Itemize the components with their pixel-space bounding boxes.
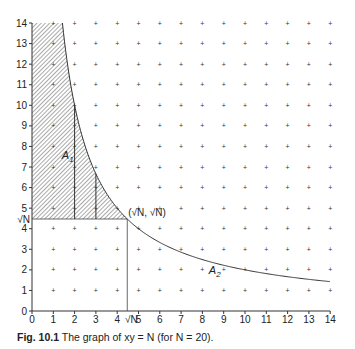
- svg-text:6: 6: [21, 182, 27, 193]
- svg-text:+: +: [136, 81, 140, 88]
- svg-text:+: +: [222, 81, 226, 88]
- svg-text:+: +: [307, 225, 311, 232]
- svg-text:+: +: [286, 225, 290, 232]
- svg-text:+: +: [94, 40, 98, 47]
- svg-text:+: +: [222, 61, 226, 68]
- svg-text:+: +: [51, 20, 55, 27]
- svg-text:+: +: [115, 246, 119, 253]
- svg-text:+: +: [136, 20, 140, 27]
- svg-text:+: +: [307, 61, 311, 68]
- svg-text:8: 8: [200, 314, 206, 325]
- svg-text:+: +: [179, 143, 183, 150]
- svg-text:+: +: [158, 61, 162, 68]
- svg-text:+: +: [51, 102, 55, 109]
- svg-text:+: +: [179, 266, 183, 273]
- svg-text:+: +: [200, 20, 204, 27]
- svg-text:+: +: [200, 143, 204, 150]
- svg-text:+: +: [328, 184, 332, 191]
- svg-text:11: 11: [261, 314, 272, 325]
- svg-text:+: +: [158, 143, 162, 150]
- svg-text:+: +: [286, 61, 290, 68]
- svg-text:+: +: [115, 225, 119, 232]
- svg-text:+: +: [264, 20, 268, 27]
- svg-text:+: +: [222, 205, 226, 212]
- svg-text:+: +: [243, 287, 247, 294]
- svg-text:+: +: [200, 225, 204, 232]
- svg-text:2: 2: [21, 264, 27, 275]
- svg-text:+: +: [328, 143, 332, 150]
- svg-text:+: +: [264, 40, 268, 47]
- svg-text:+: +: [243, 225, 247, 232]
- svg-text:+: +: [264, 61, 268, 68]
- svg-text:+: +: [73, 266, 77, 273]
- svg-text:+: +: [51, 164, 55, 171]
- svg-text:+: +: [136, 246, 140, 253]
- svg-text:+: +: [222, 122, 226, 129]
- svg-text:+: +: [200, 266, 204, 273]
- svg-text:+: +: [51, 184, 55, 191]
- svg-text:+: +: [200, 287, 204, 294]
- svg-text:(√N, √N): (√N, √N): [128, 207, 166, 218]
- svg-text:+: +: [286, 20, 290, 27]
- svg-text:+: +: [243, 122, 247, 129]
- svg-text:+: +: [222, 164, 226, 171]
- svg-text:+: +: [328, 102, 332, 109]
- svg-text:+: +: [264, 122, 268, 129]
- svg-text:+: +: [51, 143, 55, 150]
- svg-text:+: +: [115, 184, 119, 191]
- svg-text:+: +: [158, 20, 162, 27]
- svg-text:+: +: [73, 225, 77, 232]
- svg-text:+: +: [73, 40, 77, 47]
- svg-text:+: +: [158, 225, 162, 232]
- svg-text:+: +: [264, 81, 268, 88]
- svg-text:+: +: [264, 184, 268, 191]
- svg-text:+: +: [328, 40, 332, 47]
- svg-text:+: +: [136, 164, 140, 171]
- svg-text:+: +: [179, 61, 183, 68]
- svg-text:+: +: [243, 184, 247, 191]
- svg-text:+: +: [307, 246, 311, 253]
- svg-text:+: +: [243, 81, 247, 88]
- svg-text:+: +: [179, 20, 183, 27]
- svg-text:+: +: [73, 61, 77, 68]
- svg-text:+: +: [200, 184, 204, 191]
- caption: Fig. 10.1 The graph of xy = N (for N = 2…: [17, 331, 213, 343]
- svg-text:+: +: [264, 225, 268, 232]
- svg-text:+: +: [115, 164, 119, 171]
- svg-text:+: +: [158, 184, 162, 191]
- svg-text:+: +: [115, 61, 119, 68]
- svg-text:A2: A2: [208, 264, 221, 279]
- svg-text:+: +: [286, 246, 290, 253]
- svg-text:+: +: [222, 287, 226, 294]
- svg-text:+: +: [222, 102, 226, 109]
- svg-text:+: +: [222, 246, 226, 253]
- svg-text:2: 2: [72, 314, 78, 325]
- svg-text:+: +: [200, 61, 204, 68]
- svg-text:+: +: [243, 61, 247, 68]
- svg-text:+: +: [286, 143, 290, 150]
- svg-text:+: +: [136, 143, 140, 150]
- svg-text:+: +: [179, 164, 183, 171]
- svg-text:+: +: [94, 122, 98, 129]
- svg-text:+: +: [136, 266, 140, 273]
- svg-text:+: +: [158, 246, 162, 253]
- svg-text:7: 7: [178, 314, 184, 325]
- svg-text:+: +: [94, 164, 98, 171]
- svg-text:+: +: [136, 61, 140, 68]
- svg-text:+: +: [286, 122, 290, 129]
- svg-text:+: +: [94, 81, 98, 88]
- svg-text:+: +: [307, 81, 311, 88]
- svg-text:+: +: [179, 81, 183, 88]
- svg-text:+: +: [94, 143, 98, 150]
- svg-text:14: 14: [325, 314, 337, 325]
- svg-text:+: +: [179, 205, 183, 212]
- svg-text:3: 3: [93, 314, 99, 325]
- svg-text:+: +: [136, 40, 140, 47]
- svg-text:+: +: [222, 266, 226, 273]
- svg-text:+: +: [264, 246, 268, 253]
- svg-text:+: +: [200, 122, 204, 129]
- svg-text:+: +: [243, 143, 247, 150]
- svg-text:+: +: [94, 61, 98, 68]
- svg-text:+: +: [73, 287, 77, 294]
- svg-text:+: +: [115, 287, 119, 294]
